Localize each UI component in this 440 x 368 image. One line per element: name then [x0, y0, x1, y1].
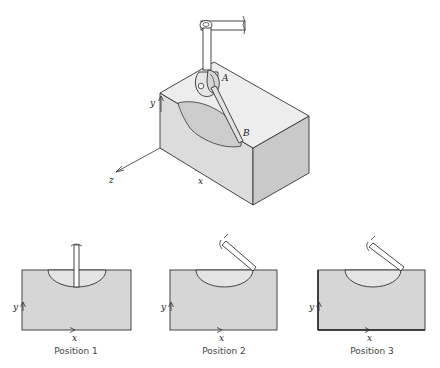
panel-caption: Position 1	[54, 346, 98, 356]
axis-label-x: x	[219, 333, 224, 343]
mechanism-figure: A B y x z y x Position 1	[0, 0, 440, 368]
axis-label-x-3d: x	[198, 176, 203, 186]
rod	[222, 241, 256, 271]
axis-label-x: x	[72, 333, 77, 343]
rod	[369, 243, 404, 271]
pivot-hole	[198, 83, 204, 89]
rod	[74, 245, 79, 287]
panel-caption: Position 2	[202, 346, 246, 356]
axis-label-x: x	[367, 333, 372, 343]
panel-position-2: y x Position 2	[160, 234, 277, 356]
point-label-b: B	[242, 128, 250, 138]
vertical-post	[203, 28, 211, 70]
axis-label-y-3d: y	[149, 98, 156, 108]
point-label-a: A	[221, 73, 229, 83]
break-mark-icon	[220, 240, 222, 249]
panel-position-1: y x Position 1	[12, 244, 131, 356]
axis-label-y: y	[308, 302, 315, 312]
isometric-view: A B y x z	[108, 16, 309, 205]
axis-label-y: y	[160, 302, 167, 312]
axis-label-y: y	[12, 302, 19, 312]
z-axis-line	[116, 148, 160, 172]
z-axis-arrow-icon	[116, 166, 124, 172]
axis-label-z-3d: z	[108, 175, 114, 185]
panel-caption: Position 3	[350, 346, 394, 356]
break-mark-icon	[367, 242, 369, 251]
panel-position-3: y x Position 3	[308, 236, 425, 356]
